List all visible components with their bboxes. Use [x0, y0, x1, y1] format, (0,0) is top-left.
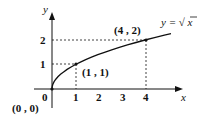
- x-axis-label: x: [180, 91, 186, 103]
- x-tick-4: 4: [143, 91, 149, 103]
- point-label-0-0: (0 , 0): [12, 102, 39, 115]
- x-tick-3: 3: [120, 91, 126, 103]
- y-tick-1: 1: [40, 58, 46, 70]
- point-label-4-2: (4 , 2): [114, 24, 141, 37]
- function-label: y = √ x: [160, 16, 193, 28]
- x-tick-1: 1: [73, 91, 79, 103]
- origin-tick: 0: [42, 91, 48, 103]
- y-tick-2: 2: [40, 34, 46, 46]
- sqrt-curve: [52, 34, 171, 89]
- function-label-prefix: y =: [160, 16, 176, 28]
- function-label-arg: x: [187, 16, 193, 28]
- point-label-1-1: (1 , 1): [82, 66, 109, 79]
- point-0-0: [50, 87, 53, 90]
- sqrt-graph: y x 0 1 2 3 4 1 2 (0 , 0) (1 , 1) (4 , 2…: [0, 0, 207, 122]
- point-1-1: [74, 62, 77, 65]
- y-axis-arrow-icon: [49, 12, 55, 20]
- point-4-2: [144, 38, 147, 41]
- sqrt-symbol: √: [179, 16, 186, 28]
- y-axis-label: y: [42, 3, 48, 15]
- x-tick-2: 2: [96, 91, 102, 103]
